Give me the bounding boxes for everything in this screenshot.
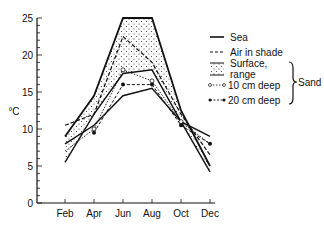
y-axis-label: °C (8, 106, 19, 117)
legend-label-surface: Surface, (230, 58, 267, 69)
sand-10cm-marker (92, 127, 96, 131)
x-tick-label: Feb (56, 208, 74, 219)
sand-10cm-marker (179, 120, 183, 124)
surface-range-band (65, 18, 210, 172)
y-tick-label: 5 (27, 161, 33, 172)
legend-group-sand: Sand (298, 77, 321, 88)
x-tick-label: Apr (86, 208, 102, 219)
temperature-chart: 0510152025FebAprJunAugOctDec°C SeaAir in… (0, 0, 324, 228)
y-tick-label: 0 (27, 198, 33, 209)
sand-brace (289, 62, 297, 104)
y-tick-label: 25 (22, 13, 34, 24)
y-tick-label: 20 (22, 50, 34, 61)
legend-label-surface-range: range (230, 69, 256, 80)
sand-20cm-marker (150, 83, 154, 87)
legend-label-sea: Sea (230, 32, 248, 43)
legend-20cm-marker (209, 99, 212, 102)
sand-20cm-marker (121, 83, 125, 87)
x-tick-label: Oct (173, 208, 189, 219)
legend-label-20cm: 20 cm deep (228, 95, 281, 106)
legend-surface-swatch (210, 63, 224, 75)
y-tick-label: 10 (22, 124, 34, 135)
legend-label-air: Air in shade (230, 47, 283, 58)
plot-area (65, 18, 212, 172)
x-tick-label: Dec (201, 208, 219, 219)
sand-10cm-marker (121, 68, 125, 72)
sand-20cm-marker (179, 123, 183, 127)
sand-20cm-marker (92, 131, 96, 135)
legend-10cm-marker (223, 84, 226, 87)
x-tick-label: Aug (143, 208, 161, 219)
legend: SeaAir in shadeSurface,range10 cm deep20… (209, 32, 322, 106)
x-tick-label: Jun (115, 208, 131, 219)
legend-20cm-marker (223, 99, 226, 102)
y-tick-label: 15 (22, 87, 34, 98)
sand-10cm-marker (150, 79, 154, 83)
legend-10cm-marker (209, 84, 212, 87)
legend-label-10cm: 10 cm deep (228, 80, 281, 91)
sand-20cm-marker (208, 142, 212, 146)
